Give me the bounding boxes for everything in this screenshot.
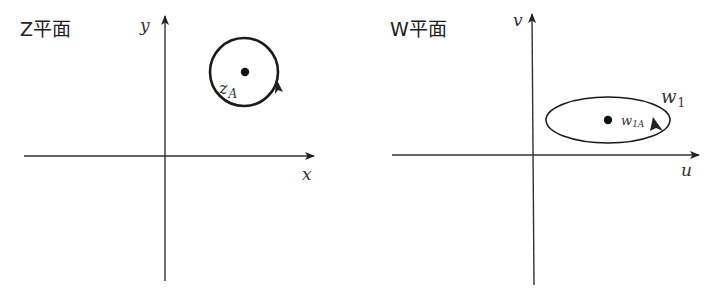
z-contour-direction-arrow: [275, 78, 283, 94]
u-axis-label: u: [681, 160, 692, 180]
z-point-A-label: zA: [218, 79, 237, 101]
y-axis-label: y: [139, 15, 150, 35]
complex-mapping-diagram: Z平面 x y zA W平面 u v w1A w1: [0, 0, 711, 297]
z-point-A: [241, 68, 249, 76]
w-contour-label: w1: [661, 86, 685, 110]
w-point-1A-label: w1A: [621, 113, 645, 129]
w-point-1A: [604, 116, 612, 124]
x-axis-label: x: [302, 164, 312, 184]
w-plane-title: W平面: [390, 18, 447, 40]
z-plane-panel: Z平面 x y zA: [20, 15, 314, 281]
w-contour-direction-arrow: [650, 117, 663, 131]
v-axis: [532, 14, 534, 285]
v-axis-label: v: [513, 10, 523, 30]
z-plane-title: Z平面: [20, 18, 71, 40]
w-plane-panel: W平面 u v w1A w1: [390, 10, 699, 285]
